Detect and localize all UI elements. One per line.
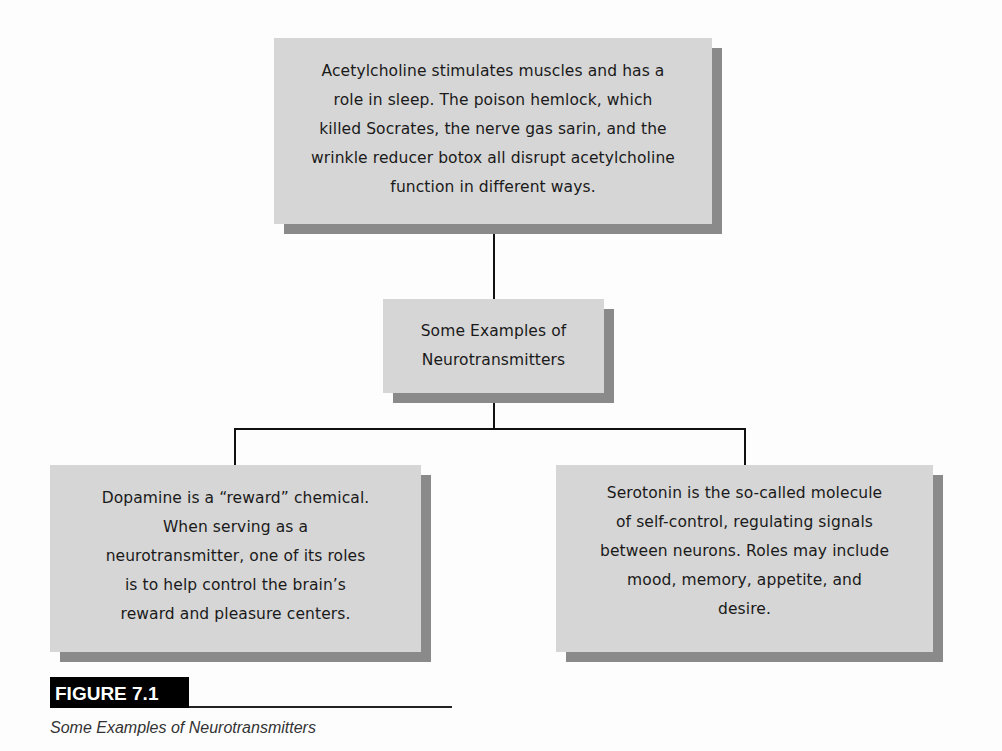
- node-acetylcholine-line: wrinkle reducer botox all disrupt acetyl…: [311, 144, 675, 173]
- node-acetylcholine-line: Acetylcholine stimulates muscles and has…: [311, 57, 675, 86]
- node-title-line: Neurotransmitters: [421, 346, 567, 375]
- connector-branch-to-left: [234, 428, 236, 465]
- node-serotonin-line: between neurons. Roles may include: [600, 537, 889, 566]
- node-acetylcholine-line: role in sleep. The poison hemlock, which: [311, 86, 675, 115]
- connector-branch-to-right: [744, 428, 746, 465]
- node-dopamine-line: When serving as a: [102, 513, 370, 542]
- node-acetylcholine-line: killed Socrates, the nerve gas sarin, an…: [311, 115, 675, 144]
- node-dopamine-line: reward and pleasure centers.: [102, 600, 370, 629]
- connector-middle-to-branch: [493, 403, 495, 430]
- connector-top-to-middle: [493, 234, 495, 299]
- node-serotonin-line: Serotonin is the so-called molecule: [600, 479, 889, 508]
- connector-branch-bar: [234, 428, 746, 430]
- node-title-line: Some Examples of: [421, 317, 567, 346]
- figure-label: FIGURE 7.1: [50, 677, 189, 708]
- node-serotonin-line: of self-control, regulating signals: [600, 508, 889, 537]
- node-dopamine-line: is to help control the brain’s: [102, 571, 370, 600]
- node-dopamine-line: Dopamine is a “reward” chemical.: [102, 484, 370, 513]
- figure-rule-divider: [189, 706, 452, 708]
- node-acetylcholine-line: function in different ways.: [311, 173, 675, 202]
- figure-caption: Some Examples of Neurotransmitters: [50, 719, 316, 737]
- node-serotonin: Serotonin is the so-called molecule of s…: [556, 465, 933, 652]
- node-serotonin-line: mood, memory, appetite, and: [600, 566, 889, 595]
- node-dopamine-line: neurotransmitter, one of its roles: [102, 542, 370, 571]
- node-title: Some Examples of Neurotransmitters: [383, 299, 604, 393]
- bleed-through-text: [60, 6, 64, 34]
- node-serotonin-line: desire.: [600, 595, 889, 624]
- node-acetylcholine: Acetylcholine stimulates muscles and has…: [274, 38, 712, 224]
- node-dopamine: Dopamine is a “reward” chemical. When se…: [50, 465, 421, 652]
